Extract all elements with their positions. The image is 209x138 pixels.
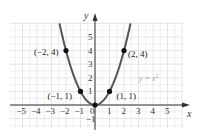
data-point: [78, 89, 83, 94]
svg-text:4: 4: [151, 106, 156, 116]
equation-label: y = x2: [138, 73, 159, 83]
svg-text:−4: −4: [31, 106, 41, 116]
svg-text:3: 3: [136, 106, 141, 116]
svg-text:2: 2: [122, 106, 127, 116]
svg-text:5: 5: [165, 106, 170, 116]
svg-text:−5: −5: [17, 106, 27, 116]
x-axis-label: x: [186, 108, 192, 119]
svg-text:4: 4: [88, 46, 93, 56]
svg-text:2: 2: [88, 73, 93, 83]
svg-text:−1: −1: [75, 106, 85, 116]
svg-text:1: 1: [88, 86, 93, 96]
data-point: [63, 48, 68, 53]
point-label: (−2, 4): [34, 47, 59, 57]
parabola-chart: −5−4−3−2−101234554321−1 (−2, 4)(−1, 1)(1…: [0, 0, 209, 138]
svg-text:−3: −3: [46, 106, 56, 116]
x-arrow-icon: [182, 103, 190, 108]
svg-text:−1: −1: [86, 114, 96, 124]
data-point: [107, 89, 112, 94]
svg-text:3: 3: [88, 59, 93, 69]
point-label: (−1, 1): [48, 91, 73, 101]
y-arrow-icon: [93, 13, 98, 21]
y-axis-label: y: [83, 10, 89, 21]
point-label: (2, 4): [128, 49, 148, 59]
data-point: [121, 48, 126, 53]
svg-text:−2: −2: [60, 106, 70, 116]
point-label: (1, 1): [117, 91, 137, 101]
svg-text:1: 1: [107, 106, 112, 116]
svg-text:5: 5: [88, 32, 93, 42]
data-point: [92, 102, 97, 107]
